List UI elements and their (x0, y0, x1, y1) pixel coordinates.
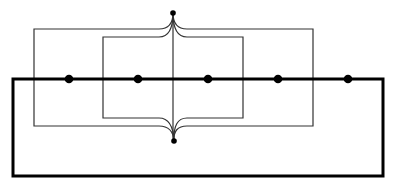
line-node-dot-5 (344, 75, 353, 84)
line-node-dot-4 (274, 75, 283, 84)
thin-paths (34, 13, 313, 141)
line-node-dot-1 (65, 75, 74, 84)
line-node-dot-3 (204, 75, 213, 84)
thick-loop-path (13, 79, 383, 176)
thick-loop (13, 79, 383, 176)
diagram-canvas (0, 0, 394, 184)
line-node-dot-2 (134, 75, 143, 84)
top-node-dot (170, 10, 176, 16)
bottom-node-dot (171, 138, 177, 144)
nodes (65, 10, 353, 144)
